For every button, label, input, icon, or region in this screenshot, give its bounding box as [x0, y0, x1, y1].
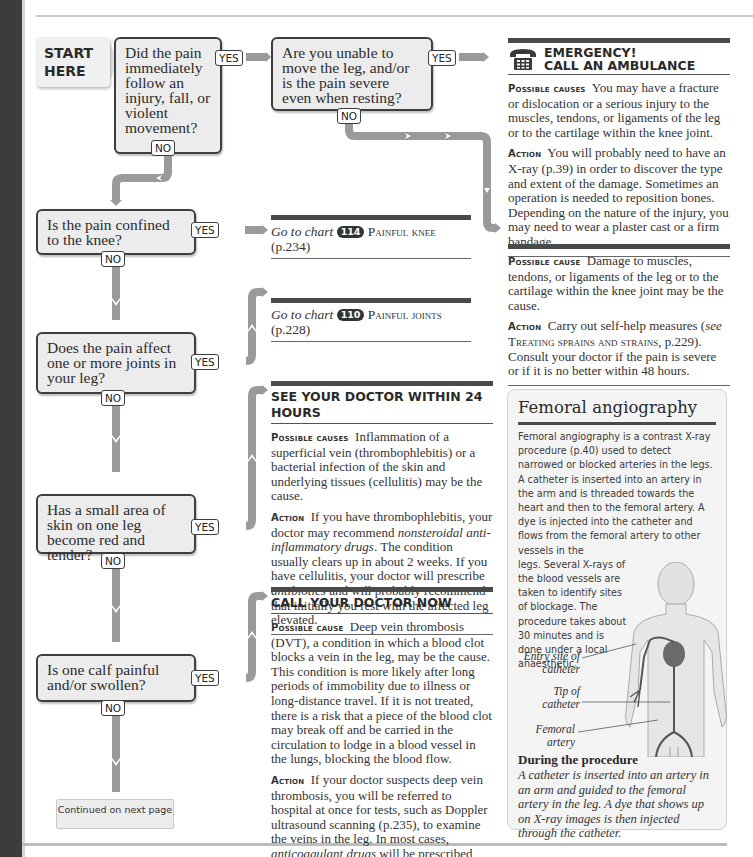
femoral-title: Femoral angiography: [518, 398, 716, 425]
label-entry-site: Entry site of catheter: [520, 650, 580, 676]
yes-button-q2[interactable]: YES: [428, 50, 456, 66]
femoral-body: Femoral angiography is a contrast X-ray …: [518, 430, 716, 558]
yes-button-q3[interactable]: YES: [191, 222, 219, 238]
start-here-label: START HERE: [36, 37, 110, 87]
no-button-q5[interactable]: NO: [101, 553, 125, 569]
panel-bar: [508, 38, 730, 43]
chart-number-badge: 110: [337, 309, 365, 321]
label-femoral-artery: Femoral artery: [520, 723, 575, 749]
question-text: Does the pain affect one or more joints …: [47, 339, 176, 386]
chart-number-badge: 114: [337, 226, 365, 238]
doctor24-causes: Possible causes Inflammation of a superf…: [271, 430, 493, 504]
goto-chart-knee-link[interactable]: Go to chart 114 Painful knee (p.234): [271, 222, 471, 259]
body-figure-illustration: [618, 562, 728, 757]
no-button-q2[interactable]: NO: [337, 108, 361, 124]
no-button-q6[interactable]: NO: [101, 700, 125, 716]
sprain-action: Action Carry out self-help measures (see…: [508, 319, 730, 378]
outcome-knee: Go to chart 114 Painful knee (p.234): [271, 215, 471, 259]
goto-chart-joints-link[interactable]: Go to chart 110 Painful joints (p.228): [271, 305, 471, 342]
continued-next-page-button[interactable]: Continued on next page: [56, 799, 174, 829]
question-q1: Did the pain immediately follow an injur…: [114, 37, 222, 154]
question-q6: Is one calf painful and/or swollen?: [36, 654, 196, 702]
emergency-subtitle: CALL AN AMBULANCE: [544, 59, 695, 72]
yes-button-q6[interactable]: YES: [191, 670, 219, 686]
panel-bar: [508, 244, 730, 249]
question-text: Are you unable to move the leg, and/or i…: [282, 44, 409, 106]
sprain-reference-link[interactable]: Treating sprains and strains: [508, 334, 658, 349]
panel-end-rule: [508, 385, 730, 386]
panel-bar: [271, 381, 493, 386]
doctor24-title: SEE YOUR DOCTOR WITHIN 24 HOURS: [271, 389, 493, 424]
question-text: Is the pain confined to the knee?: [47, 216, 170, 248]
femoral-angiography-box: Femoral angiography Femoral angiography …: [507, 389, 727, 830]
panel-bar: [271, 215, 471, 220]
yes-button-q1[interactable]: YES: [215, 50, 243, 66]
outcome-emergency: EMERGENCY! CALL AN AMBULANCE Possible ca…: [508, 38, 730, 257]
question-q2: Are you unable to move the leg, and/or i…: [271, 37, 433, 111]
yes-button-q5[interactable]: YES: [191, 519, 219, 535]
doctor-now-action: Action If your doctor suspects deep vein…: [271, 773, 493, 857]
page-edge: [22, 0, 25, 857]
emergency-header: EMERGENCY! CALL AN AMBULANCE: [508, 46, 730, 75]
question-text: Is one calf painful and/or swollen?: [47, 661, 159, 693]
telephone-icon: [508, 47, 538, 71]
no-button-q4[interactable]: NO: [101, 390, 125, 406]
doctor-now-cause: Possible cause Deep vein thrombosis (DVT…: [271, 620, 493, 767]
caption-title: During the procedure: [518, 752, 718, 768]
doctor-now-title: CALL YOUR DOCTOR NOW: [271, 595, 493, 614]
emergency-action: Action You will probably need to have an…: [508, 146, 730, 249]
sprain-cause: Possible cause Damage to muscles, tendon…: [508, 254, 730, 313]
question-q3: Is the pain confined to the knee?: [36, 209, 196, 255]
top-rule: [36, 15, 753, 17]
outcome-joints: Go to chart 110 Painful joints (p.228): [271, 298, 471, 342]
emergency-causes: Possible causes You may have a fracture …: [508, 81, 730, 140]
panel-bar: [271, 298, 471, 303]
caption-text: A catheter is inserted into an artery in…: [518, 768, 718, 841]
page-spine: [0, 0, 22, 857]
question-q5: Has a small area of skin on one leg beco…: [36, 494, 196, 554]
panel-bar: [271, 587, 493, 592]
outcome-sprain: Possible cause Damage to muscles, tendon…: [508, 244, 730, 386]
yes-button-q4[interactable]: YES: [191, 354, 219, 370]
question-q4: Does the pain affect one or more joints …: [36, 332, 196, 394]
no-button-q1[interactable]: NO: [151, 140, 175, 156]
no-button-q3[interactable]: NO: [101, 251, 125, 267]
label-catheter-tip: Tip of catheter: [520, 685, 580, 711]
outcome-doctor-now: CALL YOUR DOCTOR NOW Possible cause Deep…: [271, 587, 493, 857]
question-text: Did the pain immediately follow an injur…: [125, 44, 210, 136]
